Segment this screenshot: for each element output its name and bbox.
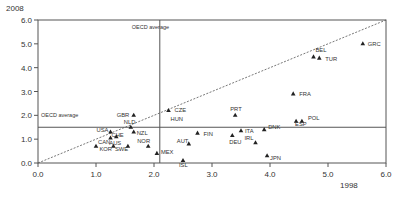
triangle-marker-icon bbox=[291, 91, 296, 95]
point-label: POL bbox=[308, 115, 320, 121]
data-point-isl: ISL bbox=[179, 158, 188, 168]
scatter-chart: 2008 1998 0.01.02.03.04.05.06.00.01.02.0… bbox=[0, 0, 404, 198]
triangle-marker-icon bbox=[253, 140, 258, 144]
point-label: CAN bbox=[98, 139, 110, 145]
data-point-nor: NOR bbox=[137, 138, 150, 148]
point-label: CZE bbox=[175, 107, 187, 113]
point-label: PRT bbox=[230, 106, 242, 112]
triangle-marker-icon bbox=[311, 54, 316, 58]
y-axis-label: 2008 bbox=[6, 4, 24, 13]
x-tick-label: 5.0 bbox=[322, 170, 334, 179]
data-points: GRCBELTURFRAPRTCZEHUNGBRPOLESPITADNKIRLD… bbox=[94, 41, 381, 168]
data-point-prt: PRT bbox=[230, 106, 242, 117]
point-label: MEX bbox=[161, 149, 174, 155]
point-label: FIN bbox=[204, 131, 213, 137]
point-label: GBR bbox=[117, 112, 130, 118]
data-point-usa: USA bbox=[97, 127, 113, 134]
y-tick-label: 4.0 bbox=[21, 64, 33, 73]
data-point-tur: TUR bbox=[317, 56, 337, 63]
triangle-marker-icon bbox=[155, 151, 160, 155]
data-point-cze: CZE bbox=[166, 107, 186, 113]
y-tick-label: 6.0 bbox=[21, 16, 33, 25]
reference-lines: OECD averageOECD average bbox=[38, 20, 386, 163]
point-label: JPN bbox=[270, 155, 281, 161]
y-tick-label: 3.0 bbox=[21, 88, 33, 97]
point-label: ISL bbox=[179, 162, 188, 168]
point-label: GRC bbox=[368, 41, 381, 47]
x-tick-label: 4.0 bbox=[264, 170, 276, 179]
data-point-deu: DEU bbox=[229, 133, 241, 145]
point-label: FRA bbox=[299, 91, 311, 97]
point-label: USA bbox=[97, 127, 109, 133]
triangle-marker-icon bbox=[361, 41, 366, 45]
point-label: DEU bbox=[229, 139, 241, 145]
point-label: DNK bbox=[268, 124, 280, 130]
point-label: NOR bbox=[137, 138, 150, 144]
point-label: KOR bbox=[99, 146, 112, 152]
oecd-average-vertical-label: OECD average bbox=[132, 24, 169, 30]
data-point-fra: FRA bbox=[291, 91, 311, 97]
triangle-marker-icon bbox=[131, 113, 136, 117]
y-tick-label: 5.0 bbox=[21, 40, 33, 49]
triangle-marker-icon bbox=[230, 133, 235, 137]
y-tick-label: 1.0 bbox=[21, 135, 33, 144]
triangle-marker-icon bbox=[166, 108, 171, 112]
data-point-mex: MEX bbox=[155, 149, 174, 155]
point-label: NLD bbox=[124, 119, 136, 125]
x-tick-label: 0.0 bbox=[32, 170, 44, 179]
point-label: ITA bbox=[245, 128, 254, 134]
x-axis-label: 1998 bbox=[340, 181, 358, 190]
diagonal-line bbox=[38, 20, 386, 163]
triangle-marker-icon bbox=[131, 129, 136, 133]
y-tick-label: 2.0 bbox=[21, 111, 33, 120]
point-label: TUR bbox=[325, 56, 337, 62]
data-point-fin: FIN bbox=[195, 131, 213, 138]
data-point-ita: ITA bbox=[239, 128, 254, 134]
x-tick-label: 3.0 bbox=[206, 170, 218, 179]
y-tick-label: 0.0 bbox=[21, 159, 33, 168]
data-point-aut: AUT bbox=[177, 138, 191, 146]
plot-area: 2008 1998 0.01.02.03.04.05.06.00.01.02.0… bbox=[0, 0, 404, 198]
data-point-grc: GRC bbox=[361, 41, 381, 47]
point-label: HUN bbox=[171, 116, 184, 122]
triangle-marker-icon bbox=[317, 56, 322, 60]
data-point-gbr: GBR bbox=[117, 112, 136, 118]
point-label: IRL bbox=[245, 135, 255, 141]
triangle-marker-icon bbox=[146, 144, 151, 148]
triangle-marker-icon bbox=[233, 113, 238, 117]
data-point-nzl: NZL bbox=[131, 129, 148, 136]
point-label: AUS bbox=[109, 140, 121, 146]
x-tick-label: 1.0 bbox=[90, 170, 102, 179]
point-label: BEL bbox=[316, 47, 328, 53]
data-point-hun: HUN bbox=[171, 116, 184, 122]
point-label: AUT bbox=[177, 138, 189, 144]
data-point-jpn: JPN bbox=[265, 153, 281, 161]
triangle-marker-icon bbox=[265, 153, 270, 157]
x-tick-label: 2.0 bbox=[148, 170, 160, 179]
data-point-esp: ESP bbox=[294, 119, 307, 128]
triangle-marker-icon bbox=[239, 128, 244, 132]
data-point-irl: IRL bbox=[245, 135, 258, 145]
x-tick-label: 6.0 bbox=[380, 170, 392, 179]
point-label: NZL bbox=[137, 130, 149, 136]
oecd-average-horizontal-label: OECD average bbox=[41, 112, 78, 118]
triangle-marker-icon bbox=[195, 131, 200, 135]
point-label: ESP bbox=[295, 121, 307, 127]
point-label: SWE bbox=[115, 146, 128, 152]
